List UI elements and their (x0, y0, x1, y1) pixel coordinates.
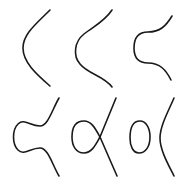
curve-branch (75, 10, 112, 87)
curve-2 (75, 10, 112, 87)
curve-branch (23, 10, 50, 86)
curve-4 (14, 98, 60, 176)
curve-oval (130, 121, 150, 153)
curve-1 (23, 10, 50, 86)
curve-branch (14, 98, 60, 176)
curve-5 (72, 98, 117, 176)
curve-branch (100, 98, 117, 176)
curve-group (14, 10, 175, 176)
curve-6 (130, 98, 174, 176)
curve-branch (160, 98, 174, 176)
elliptic-curves-diagram (0, 0, 183, 185)
curve-oval (72, 121, 100, 153)
curve-3 (134, 16, 172, 80)
curves-svg (0, 0, 183, 185)
curve-branch (134, 16, 172, 80)
